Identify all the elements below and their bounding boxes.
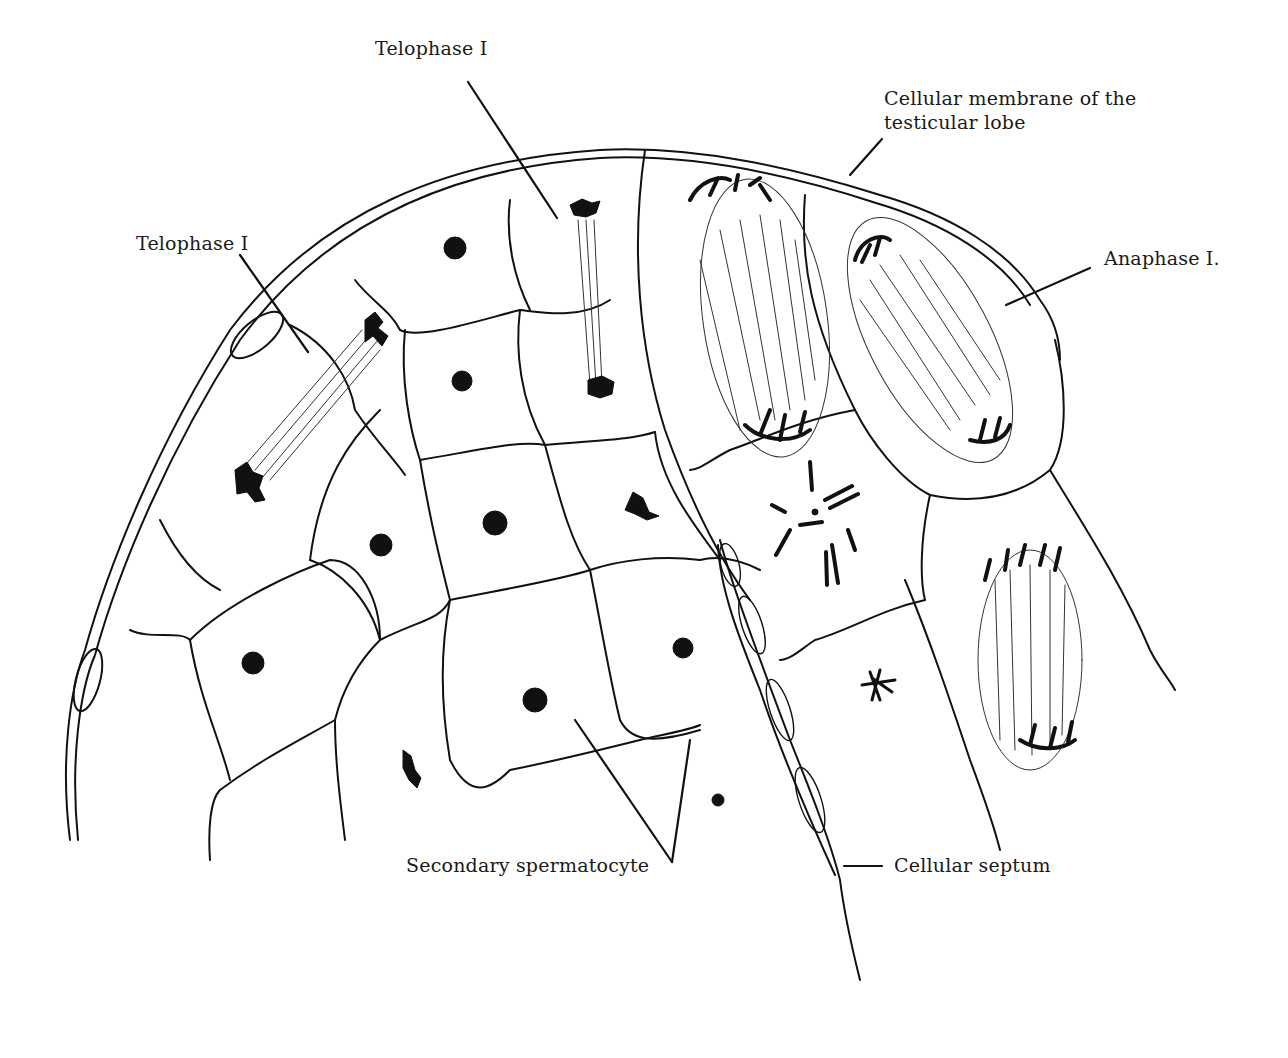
anaphase-spindle-left bbox=[684, 171, 846, 466]
label-cellular-membrane-line1: Cellular membrane of the bbox=[884, 86, 1137, 110]
prophase-chromosomes bbox=[772, 462, 895, 700]
anaphase-spindle-lower bbox=[978, 545, 1082, 770]
label-cellular-septum: Cellular septum bbox=[894, 853, 1051, 877]
label-telophase-left: Telophase I bbox=[136, 231, 248, 255]
anaphase-spindle-right bbox=[814, 193, 1047, 488]
label-secondary-spermatocyte: Secondary spermatocyte bbox=[406, 853, 649, 877]
label-cellular-membrane-line2: testicular lobe bbox=[884, 110, 1026, 134]
telophase-spindle-left bbox=[235, 312, 388, 502]
diagram-canvas: Telophase I Telophase I Cellular membran… bbox=[0, 0, 1288, 1058]
label-anaphase: Anaphase I. bbox=[1104, 246, 1220, 270]
label-telophase-top: Telophase I bbox=[375, 36, 487, 60]
testicular-lobe-drawing bbox=[0, 0, 1288, 1058]
telophase-spindle-top bbox=[570, 199, 614, 398]
spermatocyte-nuclei bbox=[242, 237, 724, 806]
